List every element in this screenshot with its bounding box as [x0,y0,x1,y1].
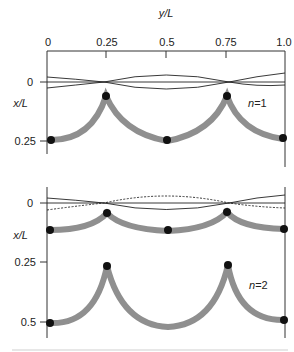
mode-label-n2: n=2 [249,279,268,291]
node [223,92,231,100]
node [280,316,288,324]
y-tick-0-25-n2: 0.25 [15,256,36,268]
tick-label-0: 0 [45,36,51,48]
node [103,262,111,270]
node [46,226,54,234]
tick-label-0-5: 0.5 [159,36,174,48]
node [279,134,287,142]
node [103,209,111,217]
y-tick-0-5-n2: 0.5 [21,316,36,328]
tick-label-1-0: 1.0 [276,36,291,48]
node [280,225,288,233]
y-tick-0-n1: 0 [27,76,33,88]
figure-canvas: y/L 0 0.25 0.5 0.75 1.0 0 x/L 0.25 [0,0,294,352]
tick-label-0-25: 0.25 [96,36,117,48]
node [163,136,171,144]
node [102,92,110,100]
mode-label-n1: n=1 [248,97,267,109]
y-axis-title-n2: x/L [12,229,28,241]
panel-n2: 0 x/L 0.25 0.5 n=2 [12,187,288,338]
top-axis-ticks: 0 0.25 0.5 0.75 1.0 [45,36,292,48]
node [46,319,54,327]
panel-n1: 0 x/L 0.25 n=1 [12,51,287,167]
rope-curve-lower-n2 [50,265,284,327]
node [164,226,172,234]
y-tick-0-n2: 0 [27,197,33,209]
y-tick-0-25-n1: 0.25 [15,135,36,147]
node [224,261,232,269]
node [223,208,231,216]
node [47,136,55,144]
wave-b-n1 [47,75,285,88]
wave-solid-n2 [47,195,285,210]
top-axis-title: y/L [158,7,174,19]
y-axis-title-n1: x/L [12,97,28,109]
tick-label-0-75: 0.75 [215,36,236,48]
